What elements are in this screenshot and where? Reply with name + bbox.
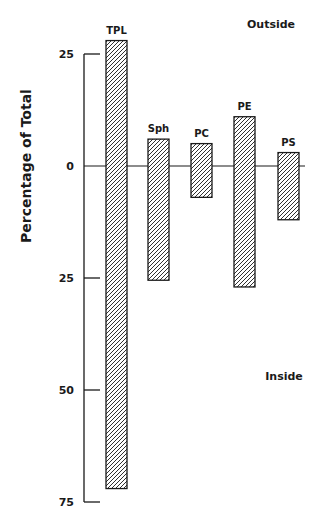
bar-label: PE: [237, 101, 251, 112]
bar-labels: TPLSphPCPEPS: [106, 25, 296, 148]
bar-chart: Percentage of Total Outside Inside 25025…: [0, 0, 319, 523]
bar-tpl: [106, 41, 127, 489]
y-tick-label: 50: [59, 384, 75, 397]
bars: [106, 41, 299, 489]
bar-pe: [234, 117, 255, 287]
y-tick-label: 0: [66, 160, 74, 173]
y-tick-label: 25: [59, 48, 74, 61]
region-label-outside: Outside: [247, 18, 295, 31]
y-axis: 250255075: [59, 48, 100, 509]
bar-label: PC: [194, 128, 209, 139]
y-tick-label: 25: [59, 272, 74, 285]
bar-label: Sph: [148, 123, 169, 134]
bar-label: PS: [281, 137, 296, 148]
y-tick-label: 75: [59, 496, 74, 509]
bar-label: TPL: [106, 25, 127, 36]
y-axis-title: Percentage of Total: [18, 89, 34, 243]
bar-pc: [191, 144, 212, 198]
region-label-inside: Inside: [265, 370, 303, 383]
bar-sph: [148, 139, 169, 280]
bar-ps: [278, 153, 299, 220]
